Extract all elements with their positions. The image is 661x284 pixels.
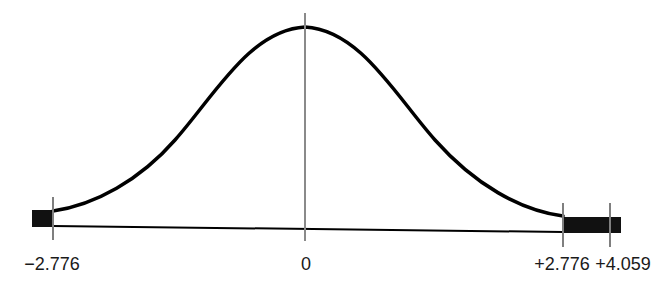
x-axis-line <box>53 226 563 232</box>
center-label: 0 <box>301 254 311 275</box>
t-distribution-diagram <box>0 0 661 284</box>
density-curve <box>53 27 563 216</box>
test-statistic-label: +4.059 <box>595 254 651 275</box>
right-rejection-region <box>563 217 621 233</box>
right-critical-label: +2.776 <box>534 254 590 275</box>
left-critical-label: −2.776 <box>24 254 80 275</box>
left-rejection-region <box>32 210 53 227</box>
